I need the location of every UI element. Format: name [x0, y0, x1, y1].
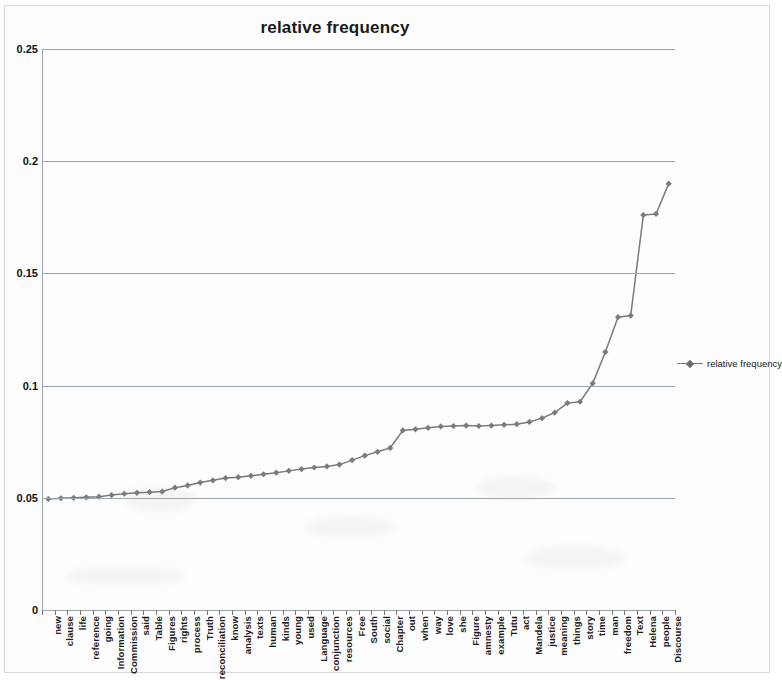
x-tick	[143, 610, 144, 615]
data-point-marker	[526, 419, 532, 425]
gridline	[42, 386, 675, 387]
data-point-marker	[260, 471, 266, 477]
data-point-marker	[412, 426, 418, 432]
x-tick	[485, 610, 486, 615]
y-tick-label: 0.25	[4, 43, 38, 55]
x-tick-label: man	[609, 616, 620, 636]
x-tick	[472, 610, 473, 615]
chart-title: relative frequency	[5, 18, 665, 38]
x-tick	[219, 610, 220, 615]
x-tick	[371, 610, 372, 615]
x-tick	[548, 610, 549, 615]
x-tick	[308, 610, 309, 615]
x-tick-label: story	[584, 616, 595, 640]
x-tick	[194, 610, 195, 615]
x-tick-label: young	[292, 616, 303, 645]
x-tick-label: resources	[343, 616, 354, 662]
x-tick-label: kinds	[280, 616, 291, 641]
data-point-marker	[286, 468, 292, 474]
data-point-marker	[628, 312, 634, 318]
x-tick	[396, 610, 397, 615]
x-tick	[67, 610, 68, 615]
x-tick	[333, 610, 334, 615]
x-tick	[586, 610, 587, 615]
chart-frame: relative frequency 0.250.20.150.10.050 n…	[4, 5, 770, 673]
x-tick-label: freedom	[622, 616, 633, 654]
x-tick	[270, 610, 271, 615]
x-tick	[346, 610, 347, 615]
x-tick	[55, 610, 56, 615]
x-tick-label: she	[457, 616, 468, 633]
data-point-marker	[488, 422, 494, 428]
y-tick-label: 0	[4, 604, 38, 616]
data-point-marker	[602, 349, 608, 355]
x-tick-label: going	[102, 616, 113, 642]
x-tick-label: life	[77, 616, 88, 630]
x-tick-label: way	[432, 616, 443, 634]
x-tick-label: social	[381, 616, 392, 644]
data-point-marker	[374, 449, 380, 455]
x-axis-labels: newclauselifereferencegoingInformationCo…	[42, 616, 675, 680]
data-point-marker	[45, 496, 51, 502]
x-tick	[409, 610, 410, 615]
data-point-marker	[463, 422, 469, 428]
data-point-marker	[248, 473, 254, 479]
data-point-marker	[425, 425, 431, 431]
x-tick	[662, 610, 663, 615]
x-tick	[675, 610, 676, 615]
x-tick-label: time	[596, 616, 607, 636]
x-tick	[637, 610, 638, 615]
x-tick	[536, 610, 537, 615]
data-point-marker	[146, 489, 152, 495]
x-tick	[384, 610, 385, 615]
x-tick-label: Truth	[204, 616, 215, 640]
x-tick-label: justice	[546, 616, 557, 647]
x-tick	[510, 610, 511, 615]
x-tick-label: Mandela	[533, 616, 544, 655]
x-tick	[156, 610, 157, 615]
gridline	[42, 49, 675, 50]
x-tick	[257, 610, 258, 615]
data-point-marker	[121, 491, 127, 497]
x-tick-label: example	[495, 616, 506, 655]
x-tick-label: Commission	[128, 616, 139, 674]
x-tick-label: said	[140, 616, 151, 635]
gridline	[42, 273, 675, 274]
x-tick-label: know	[229, 616, 240, 641]
gridline	[42, 498, 675, 499]
x-tick-label: Helena	[647, 616, 658, 648]
x-tick	[612, 610, 613, 615]
series-line	[48, 184, 668, 499]
x-tick-label: Information	[115, 616, 126, 669]
data-point-marker	[311, 464, 317, 470]
x-tick	[118, 610, 119, 615]
x-tick	[232, 610, 233, 615]
x-tick-label: Chapter	[394, 616, 405, 653]
plot-area	[42, 49, 675, 609]
data-point-marker	[324, 463, 330, 469]
data-point-marker	[336, 461, 342, 467]
data-point-marker	[96, 494, 102, 500]
x-tick	[650, 610, 651, 615]
y-tick-label: 0.2	[4, 155, 38, 167]
y-tick-label: 0.1	[4, 380, 38, 392]
x-tick-label: conjunction	[330, 616, 341, 671]
x-tick-label: reconciliation	[216, 616, 227, 679]
x-tick	[105, 610, 106, 615]
x-tick-label: human	[267, 616, 278, 648]
x-tick	[42, 610, 43, 615]
x-tick-label: texts	[254, 616, 265, 639]
x-tick	[599, 610, 600, 615]
x-tick-label: used	[305, 616, 316, 639]
x-tick-label: Figures	[166, 616, 177, 651]
data-point-marker	[450, 423, 456, 429]
data-point-marker	[134, 490, 140, 496]
x-tick-label: South	[368, 616, 379, 643]
x-tick-label: Figure	[470, 616, 481, 646]
data-point-marker	[222, 475, 228, 481]
x-tick	[498, 610, 499, 615]
x-tick-label: Text	[634, 616, 645, 635]
x-tick	[359, 610, 360, 615]
y-tick-label: 0.05	[4, 492, 38, 504]
